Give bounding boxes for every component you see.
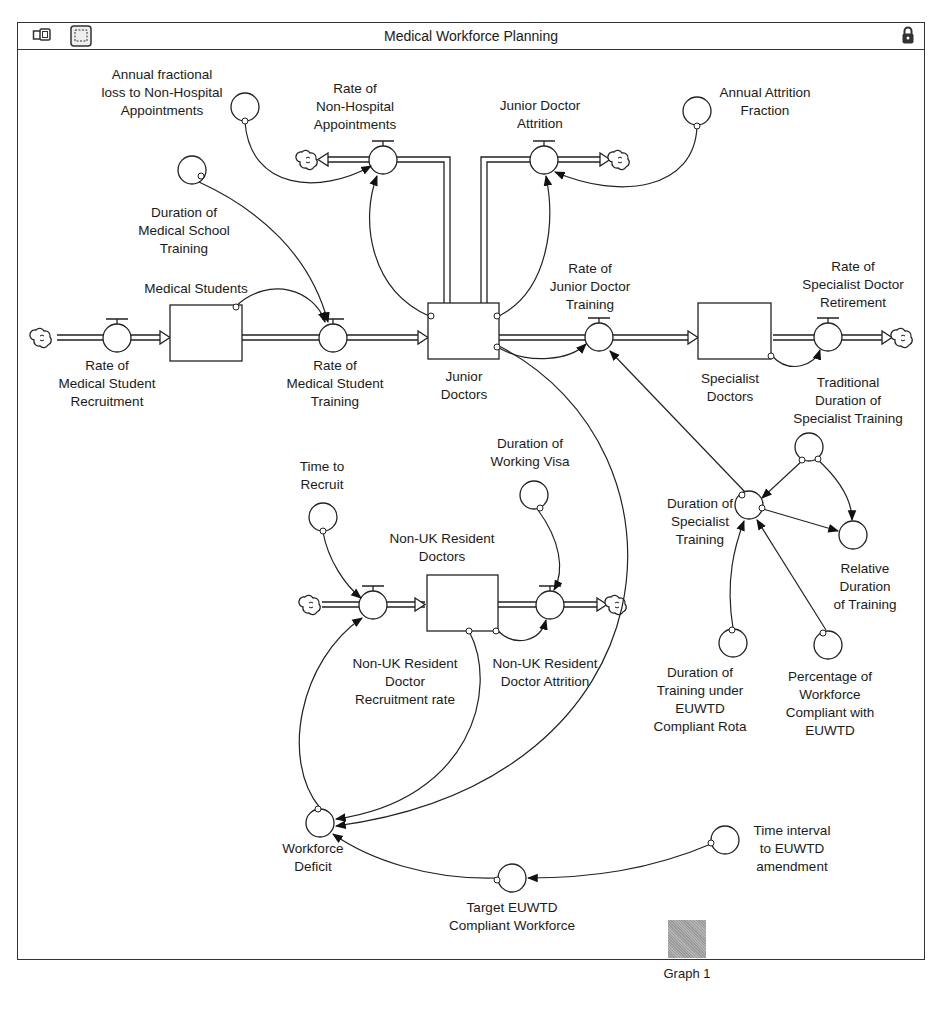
cloud-sink-icon [296,150,317,169]
cloud-sink-icon [891,328,912,347]
label-non-uk-recruitment: Non-UK Resident Doctor Recruitment rate [352,655,457,709]
label-percentage-compliant: Percentage of Workforce Compliant with E… [786,668,875,740]
label-non-uk-attrition: Non-UK Resident Doctor Attrition [492,655,597,691]
label-specialist-retirement: Rate of Specialist Doctor Retirement [802,258,903,312]
label-workforce-deficit: Workforce Deficit [282,840,343,876]
label-time-to-recruit: Time to Recruit [300,458,345,494]
label-junior-attrition: Junior Doctor Attrition [500,97,580,133]
label-annual-attrition-fraction: Annual Attrition Fraction [720,84,811,120]
label-annual-loss-non-hospital: Annual fractional loss to Non-Hospital A… [102,66,223,120]
label-relative-duration: Relative Duration of Training [833,560,896,614]
label-duration-working-visa: Duration of Working Visa [490,435,569,471]
label-med-student-training: Rate of Medical Student Training [287,357,384,411]
cloud-source-icon [30,328,51,347]
graph-pad-icon[interactable] [668,920,706,958]
label-junior-doctors: Junior Doctors [441,368,488,404]
cloud-source-icon [299,595,320,614]
stock-specialist-doctors [698,303,771,359]
label-duration-med-school: Duration of Medical School Training [138,204,230,258]
label-med-student-recruitment: Rate of Medical Student Recruitment [59,357,156,411]
label-duration-euwtd-rota: Duration of Training under EUWTD Complia… [653,664,746,736]
label-target-workforce: Target EUWTD Compliant Workforce [449,899,575,935]
label-time-interval-amendment: Time interval to EUWTD amendment [754,822,831,876]
stock-non-uk-doctors [427,575,498,631]
label-medical-students: Medical Students [144,280,248,298]
stock-junior-doctors [428,303,499,359]
label-duration-specialist: Duration of Specialist Training [667,495,733,549]
label-rate-non-hospital: Rate of Non-Hospital Appointments [314,80,397,134]
cloud-sink-icon [608,150,629,169]
label-specialist-doctors: Specialist Doctors [701,370,759,406]
label-junior-training: Rate of Junior Doctor Training [550,260,630,314]
label-non-uk-doctors: Non-UK Resident Doctors [389,530,494,566]
stock-medical-students [170,305,242,361]
graph-pad-label[interactable]: Graph 1 [664,965,711,983]
label-traditional-duration: Traditional Duration of Specialist Train… [793,374,903,428]
